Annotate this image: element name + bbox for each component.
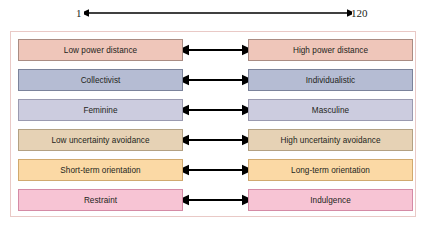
pole-label-left: Collectivist (81, 76, 121, 85)
scale-max-label: 120 (351, 6, 368, 20)
pole-box-left[interactable]: Collectivist (18, 69, 183, 91)
dimension-rows: Low power distance High power distance C… (0, 31, 428, 217)
pole-label-left: Feminine (83, 106, 117, 115)
pole-box-right[interactable]: Indulgence (248, 189, 413, 211)
pole-label-right: Long-term orientation (291, 166, 370, 175)
scale-double-arrow-icon (84, 4, 352, 24)
bidirectional-arrow-icon (183, 39, 248, 61)
pole-box-left[interactable]: Low power distance (18, 39, 183, 61)
pole-label-right: Masculine (312, 106, 349, 115)
pole-box-right[interactable]: Masculine (248, 99, 413, 121)
pole-box-right[interactable]: High uncertainty avoidance (248, 129, 413, 151)
dimension-row: Feminine Masculine (0, 99, 428, 121)
bidirectional-arrow-icon (183, 159, 248, 181)
cultural-dimensions-diagram: 1 120 Low power distance (0, 0, 428, 228)
pole-label-right: Indulgence (310, 196, 351, 205)
pole-label-left: Low power distance (64, 46, 137, 55)
pole-box-left[interactable]: Short-term orientation (18, 159, 183, 181)
pole-box-right[interactable]: Long-term orientation (248, 159, 413, 181)
dimension-row: Short-term orientation Long-term orienta… (0, 159, 428, 181)
dimension-row: Restraint Indulgence (0, 189, 428, 211)
pole-box-left[interactable]: Restraint (18, 189, 183, 211)
pole-label-right: High power distance (293, 46, 368, 55)
pole-box-right[interactable]: Individualistic (248, 69, 413, 91)
pole-label-left: Restraint (84, 196, 117, 205)
scale-min-label: 1 (76, 6, 82, 20)
bidirectional-arrow-icon (183, 69, 248, 91)
scale-axis: 1 120 (0, 4, 428, 26)
pole-label-left: Short-term orientation (60, 166, 140, 175)
pole-label-right: Individualistic (306, 76, 355, 85)
dimension-row: Low uncertainty avoidance High uncertain… (0, 129, 428, 151)
bidirectional-arrow-icon (183, 129, 248, 151)
pole-label-left: Low uncertainty avoidance (51, 136, 149, 145)
bidirectional-arrow-icon (183, 189, 248, 211)
pole-label-right: High uncertainty avoidance (280, 136, 380, 145)
dimension-row: Low power distance High power distance (0, 39, 428, 61)
pole-box-right[interactable]: High power distance (248, 39, 413, 61)
pole-box-left[interactable]: Low uncertainty avoidance (18, 129, 183, 151)
bidirectional-arrow-icon (183, 99, 248, 121)
dimension-row: Collectivist Individualistic (0, 69, 428, 91)
pole-box-left[interactable]: Feminine (18, 99, 183, 121)
